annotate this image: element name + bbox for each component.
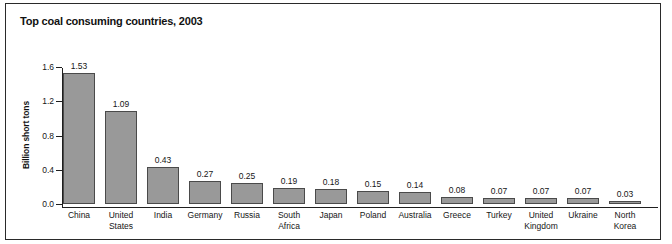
bar <box>441 197 473 204</box>
x-axis-category-label: NorthKorea <box>598 210 652 231</box>
bar-value-label: 0.18 <box>308 178 354 187</box>
x-axis-line <box>62 207 658 208</box>
bar <box>105 111 137 204</box>
y-axis-tick-label: 1.2 <box>30 97 54 106</box>
bar-value-label: 0.07 <box>560 187 606 196</box>
bar <box>525 198 557 204</box>
bar <box>231 183 263 204</box>
bar <box>273 188 305 204</box>
category-label-line: Kingdom <box>514 221 568 232</box>
category-label-line: Korea <box>598 221 652 232</box>
bar <box>399 192 431 204</box>
bar-value-label: 0.07 <box>518 187 564 196</box>
bar-value-label: 1.09 <box>98 100 144 109</box>
bar <box>483 198 515 204</box>
figure-frame: Top coal consuming countries, 2003 Billi… <box>5 3 661 240</box>
bar-value-label: 1.53 <box>56 62 102 71</box>
bar <box>63 73 95 204</box>
y-axis-tick-label: 0.4 <box>30 166 54 175</box>
y-axis-tick-mark <box>56 204 62 205</box>
bar <box>315 189 347 204</box>
bar <box>189 181 221 204</box>
y-axis-tick-mark <box>56 136 62 137</box>
bar-value-label: 0.27 <box>182 170 228 179</box>
category-label-line: Africa <box>262 221 316 232</box>
bar <box>567 198 599 204</box>
bar <box>357 191 389 204</box>
y-axis-tick-mark <box>56 170 62 171</box>
bar-value-label: 0.14 <box>392 181 438 190</box>
bar-value-label: 0.03 <box>602 190 648 199</box>
bar-value-label: 0.07 <box>476 187 522 196</box>
category-label-line: North <box>598 210 652 221</box>
y-axis-tick-label: 0.8 <box>30 132 54 141</box>
bar-value-label: 0.19 <box>266 177 312 186</box>
bar-value-label: 0.43 <box>140 156 186 165</box>
chart-figure: Top coal consuming countries, 2003 Billi… <box>0 0 672 244</box>
y-axis-tick-label: 0.0 <box>30 200 54 209</box>
bar-value-label: 0.25 <box>224 172 270 181</box>
category-label-line: States <box>94 221 148 232</box>
bar <box>147 167 179 204</box>
page-title: Top coal consuming countries, 2003 <box>20 15 202 27</box>
y-axis-tick-label: 1.6 <box>30 63 54 72</box>
bar <box>609 201 641 204</box>
bar-value-label: 0.15 <box>350 180 396 189</box>
bar-value-label: 0.08 <box>434 186 480 195</box>
y-axis-tick-mark <box>56 101 62 102</box>
